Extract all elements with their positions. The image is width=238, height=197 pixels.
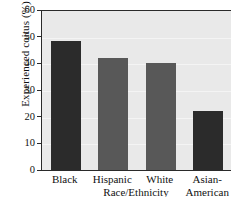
bar-asian-american [193,111,223,170]
y-tick-label: 40 [25,55,36,71]
y-tick-label: 30 [25,82,36,98]
y-tick-label: 10 [25,135,36,151]
bar-white [146,63,176,170]
y-tick-label: 20 [25,109,36,125]
x-axis-title: Race/Ethnicity [41,186,231,197]
plot-area [41,10,231,170]
gridline [42,38,231,39]
bar-black [51,41,81,170]
bar-hispanic [98,58,128,170]
bar-chart-figure: Experienced coitus (%) 0102030405060 Bla… [0,0,238,197]
x-tick-label-line: Asian- [178,173,238,186]
y-tick-label: 50 [25,29,36,45]
y-tick-label: 60 [25,2,36,18]
